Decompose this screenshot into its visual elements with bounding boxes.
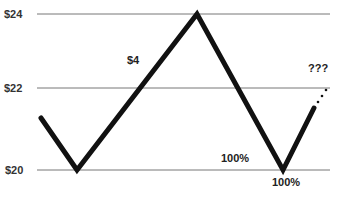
annotation-move-size: $4 [127,54,140,66]
y-tick-24: $24 [4,8,23,20]
price-swing-chart: $24 $22 $20 $4 100% 100% ??? [0,0,353,197]
projection-dots [317,89,328,104]
annotation-second-low: 100% [272,176,300,188]
y-tick-20: $20 [5,164,23,176]
y-tick-22: $22 [4,82,22,94]
annotation-retrace: 100% [221,152,249,164]
annotation-unknown: ??? [308,62,328,74]
price-line [41,14,314,170]
